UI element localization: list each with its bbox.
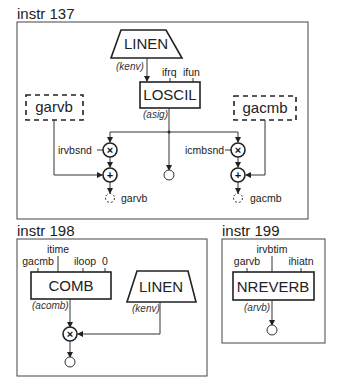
garvb-input-label: garvb: [234, 255, 260, 267]
asig-right-wire: [169, 132, 238, 142]
audio-out-circle: [164, 170, 174, 180]
multiply-symbol: ×: [235, 144, 241, 156]
irvbsnd-label: irvbsnd: [58, 144, 92, 156]
ifun-label: ifun: [183, 66, 200, 78]
irvbtim-label: irvbtim: [257, 243, 288, 255]
instr-198-title: instr 198: [17, 222, 75, 239]
garvb-global-label: garvb: [35, 98, 73, 115]
add-symbol: +: [235, 169, 241, 181]
loscil-label: LOSCIL: [143, 86, 196, 103]
audio-out-circle: [65, 357, 75, 367]
instr-199-panel: instr 199 irvbtim garvb ihiatn NREVERB (…: [222, 222, 325, 343]
kenv-label: (kenv): [116, 61, 144, 72]
gacmb-input-label: gacmb: [22, 255, 54, 267]
multiply-symbol: ×: [107, 144, 113, 156]
ifrq-label: ifrq: [162, 66, 177, 78]
gacmb-global-label: gacmb: [242, 99, 287, 116]
garvb-out-label: garvb: [121, 192, 147, 204]
instr-198-panel: instr 198 itime gacmb iloop 0 COMB (acom…: [17, 222, 207, 376]
gacmb-feedback-wire: [246, 120, 265, 175]
instr-137-title: instr 137: [17, 5, 75, 22]
kenv-label: (kenv): [132, 303, 160, 314]
nreverb-label: NREVERB: [237, 278, 310, 295]
audio-out-circle: [267, 325, 277, 335]
linen-label: LINEN: [124, 35, 168, 52]
add-symbol: +: [107, 169, 113, 181]
zero-label: 0: [102, 255, 108, 267]
asig-left-wire: [110, 132, 169, 142]
multiply-symbol: ×: [67, 328, 73, 340]
signal-flow-diagram: instr 137 LINEN (kenv) ifrq ifun LOSCIL …: [0, 0, 341, 392]
arvb-label: (arvb): [244, 302, 270, 313]
linen-label: LINEN: [139, 278, 183, 295]
ihiatn-label: ihiatn: [288, 255, 313, 267]
gacmb-out-circle: [234, 194, 243, 203]
icmbsnd-label: icmbsnd: [185, 144, 224, 156]
gacmb-out-label: gacmb: [250, 192, 282, 204]
acomb-label: (acomb): [32, 300, 69, 311]
asig-label: (asig): [143, 109, 168, 120]
linen-unit: LINEN: [111, 30, 182, 58]
comb-label: COMB: [49, 277, 94, 294]
itime-label: itime: [47, 243, 69, 255]
iloop-label: iloop: [74, 255, 96, 267]
instr-137-panel: instr 137 LINEN (kenv) ifrq ifun LOSCIL …: [17, 5, 308, 219]
garvb-out-circle: [106, 194, 115, 203]
instr-199-title: instr 199: [222, 222, 280, 239]
